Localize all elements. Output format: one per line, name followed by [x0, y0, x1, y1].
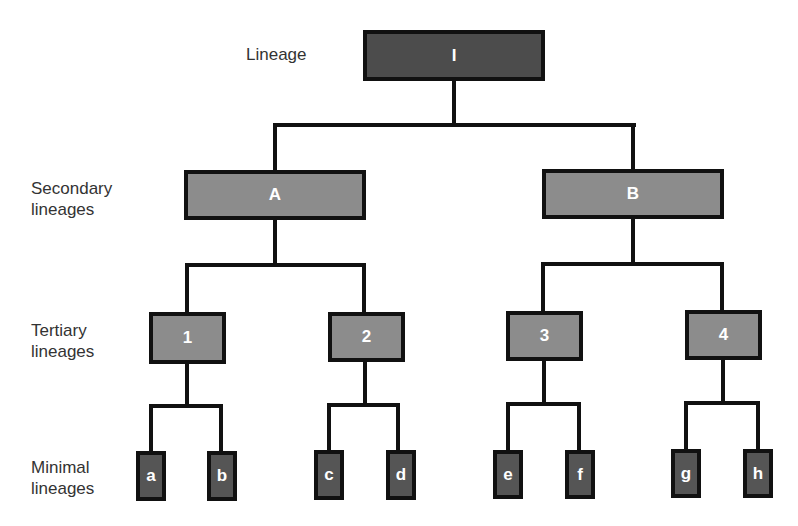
- edge-3-down: [542, 359, 546, 405]
- edge-4-horizontal: [684, 401, 760, 405]
- edge-B-down: [631, 217, 635, 265]
- edge-to-g: [684, 401, 688, 450]
- edge-to-a: [149, 404, 153, 452]
- edge-root-down: [452, 79, 456, 126]
- node-minimal-b: b: [207, 451, 237, 501]
- node-tertiary-4: 4: [685, 310, 762, 360]
- node-minimal-d: d: [386, 450, 416, 500]
- edge-to-3: [541, 262, 545, 313]
- edge-to-B: [631, 123, 635, 171]
- edge-to-f: [577, 402, 581, 451]
- edge-to-2: [362, 263, 366, 314]
- edge-to-e: [506, 402, 510, 451]
- edge-4-down: [721, 358, 725, 404]
- edge-root-horizontal: [273, 123, 636, 127]
- node-minimal-g: g: [671, 449, 701, 498]
- edge-to-1: [185, 263, 189, 314]
- node-tertiary-3: 3: [506, 311, 583, 361]
- edge-2-down: [363, 360, 367, 406]
- level-label-secondary: Secondary lineages: [31, 178, 112, 220]
- node-minimal-c: c: [314, 450, 344, 500]
- node-secondary-B: B: [542, 169, 724, 219]
- edge-1-down: [185, 362, 189, 407]
- edge-3-horizontal: [506, 402, 581, 406]
- edge-2-horizontal: [327, 403, 400, 407]
- node-root-I: I: [363, 30, 545, 81]
- edge-to-d: [396, 403, 400, 451]
- node-minimal-a: a: [136, 451, 166, 501]
- level-label-tertiary: Tertiary lineages: [31, 320, 94, 362]
- level-label-minimal: Minimal lineages: [31, 457, 94, 499]
- node-tertiary-2: 2: [328, 312, 405, 362]
- node-minimal-f: f: [565, 450, 595, 499]
- node-tertiary-1: 1: [149, 312, 226, 364]
- edge-to-c: [327, 403, 331, 451]
- node-minimal-e: e: [493, 450, 523, 499]
- node-secondary-A: A: [184, 170, 366, 220]
- edge-A-down: [273, 218, 277, 266]
- lineage-diagram: Lineage Secondary lineages Tertiary line…: [0, 0, 798, 526]
- edge-to-h: [756, 401, 760, 450]
- edge-to-b: [219, 404, 223, 452]
- node-minimal-h: h: [743, 449, 773, 498]
- edge-B-horizontal: [541, 262, 724, 266]
- edge-to-A: [273, 123, 277, 172]
- level-label-lineage: Lineage: [246, 44, 307, 65]
- edge-A-horizontal: [185, 263, 366, 267]
- edge-1-horizontal: [149, 404, 223, 408]
- edge-to-4: [720, 262, 724, 312]
